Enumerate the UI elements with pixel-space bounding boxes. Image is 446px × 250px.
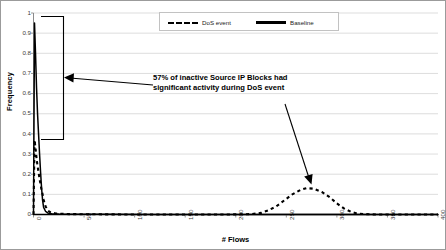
annotation-shapes (41, 17, 313, 185)
callout-line-1: 57% of inactive Source IP Blocks had (153, 73, 353, 83)
series-line-baseline (34, 23, 439, 214)
legend-entry-baseline: Baseline (256, 13, 314, 32)
data-series-group (34, 23, 439, 214)
legend-label-dos-event: DoS event (202, 19, 231, 26)
bracket-annotation (41, 17, 64, 140)
arrow-to-bracket (64, 73, 153, 85)
chart-legend: DoS event Baseline (159, 12, 339, 31)
x-axis-title: # Flows (33, 235, 438, 244)
legend-label-baseline: Baseline (290, 19, 314, 26)
chart-container: Frequency 00.10.20.30.40.50.60.70.80.91 … (0, 0, 446, 250)
legend-swatch-dashed-icon (168, 22, 198, 24)
arrow-to-dos-peak (285, 104, 313, 185)
callout-annotation: 57% of inactive Source IP Blocks had sig… (153, 73, 353, 94)
callout-line-2: significant activity during DoS event (153, 83, 353, 93)
series-line-dos-event (34, 140, 439, 215)
plot-area (1, 1, 446, 250)
gridlines (34, 13, 439, 194)
legend-swatch-solid-icon (256, 21, 286, 24)
legend-entry-dos-event: DoS event (168, 13, 231, 32)
